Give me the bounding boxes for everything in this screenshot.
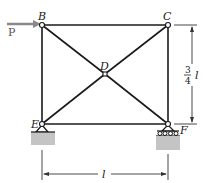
joint-C xyxy=(166,23,171,28)
width-variable: l xyxy=(102,168,106,181)
truss-diagram: P B C D E F 3 4 l xyxy=(0,0,204,183)
member-CD xyxy=(105,25,168,74)
load-label: P xyxy=(8,26,16,39)
height-numerator: 3 xyxy=(185,65,191,75)
height-denominator: 4 xyxy=(185,76,191,86)
member-BD xyxy=(42,25,105,74)
joint-B xyxy=(40,23,45,28)
member-DE xyxy=(42,74,105,124)
joint-E xyxy=(40,122,45,127)
roller-support-F xyxy=(156,125,180,150)
node-label-B: B xyxy=(37,10,46,23)
node-label-F: F xyxy=(179,124,188,137)
height-variable: l xyxy=(195,69,199,82)
joint-F xyxy=(166,122,171,127)
member-DF xyxy=(105,74,168,124)
node-label-C: C xyxy=(163,10,172,23)
node-label-D: D xyxy=(99,60,109,73)
node-label-E: E xyxy=(30,118,39,131)
